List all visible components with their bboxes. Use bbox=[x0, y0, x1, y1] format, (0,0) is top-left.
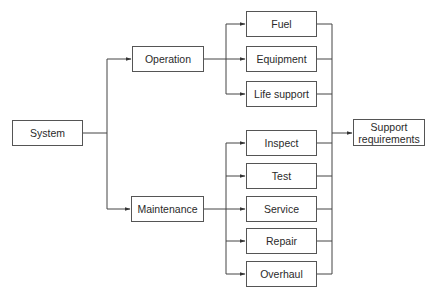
node-equipment: Equipment bbox=[246, 46, 317, 72]
node-label: Operation bbox=[145, 53, 191, 65]
node-inspect: Inspect bbox=[246, 130, 317, 156]
node-label: Maintenance bbox=[137, 203, 197, 215]
node-test: Test bbox=[246, 163, 317, 189]
node-overhaul: Overhaul bbox=[246, 261, 317, 287]
node-label: System bbox=[30, 127, 65, 139]
node-repair: Repair bbox=[246, 228, 317, 254]
node-life-support: Life support bbox=[246, 81, 317, 107]
node-label: Inspect bbox=[265, 137, 299, 149]
node-service: Service bbox=[246, 196, 317, 222]
node-label: Test bbox=[272, 170, 291, 182]
node-system: System bbox=[12, 120, 83, 146]
connector-lines bbox=[0, 0, 435, 297]
node-label: Service bbox=[264, 203, 299, 215]
node-label: Life support bbox=[254, 88, 309, 100]
node-label: Repair bbox=[266, 235, 297, 247]
node-label: Overhaul bbox=[260, 268, 303, 280]
node-fuel: Fuel bbox=[246, 11, 317, 37]
node-label-line2: requirements bbox=[358, 133, 419, 145]
node-operation: Operation bbox=[132, 46, 204, 72]
node-maintenance: Maintenance bbox=[131, 196, 204, 222]
node-support-requirements: Support requirements bbox=[353, 119, 425, 146]
node-label-line1: Support bbox=[371, 121, 408, 133]
node-label: Equipment bbox=[256, 53, 306, 65]
node-label: Fuel bbox=[271, 18, 291, 30]
